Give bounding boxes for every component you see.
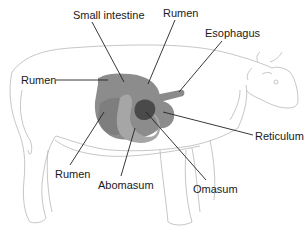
label-esophagus: Esophagus: [205, 27, 260, 39]
stomach: [95, 73, 185, 143]
cow-illustration: [0, 0, 308, 232]
label-rumen-left: Rumen: [21, 74, 56, 86]
label-reticulum: Reticulum: [255, 130, 304, 142]
label-omasum: Omasum: [193, 183, 238, 195]
label-small-intestine: Small intestine: [73, 9, 145, 21]
label-rumen-bottom: Rumen: [55, 168, 90, 180]
cow-digestive-diagram: Small intestine Rumen Esophagus Rumen Re…: [0, 0, 308, 232]
label-abomasum: Abomasum: [98, 179, 154, 191]
label-rumen-top: Rumen: [163, 7, 198, 19]
